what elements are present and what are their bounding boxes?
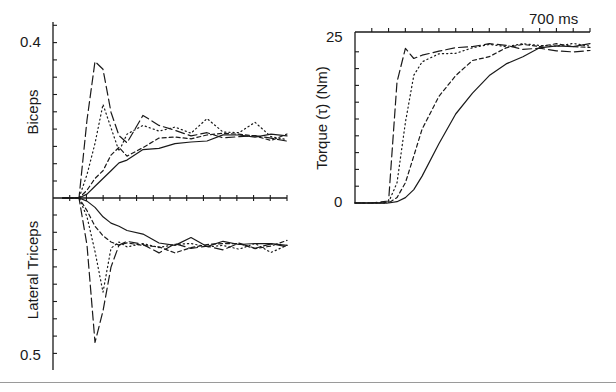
- triceps-ytick-0.5: 0.5: [20, 346, 41, 363]
- left-panel-emg: 0.4 0.5 Biceps Lateral Triceps: [20, 22, 287, 370]
- torque-ytick-25: 25: [326, 28, 343, 45]
- torque-ytick-0: 0: [334, 193, 342, 210]
- trace-long-dash: [63, 198, 287, 342]
- triceps-traces: [63, 198, 287, 342]
- biceps-axis-label: Biceps: [24, 89, 41, 134]
- torque-axis-label: Torque (τ) (Nm): [313, 66, 330, 169]
- biceps-traces: [63, 62, 287, 199]
- trace-solid: [63, 198, 287, 247]
- triceps-axis-label: Lateral Triceps: [24, 221, 41, 319]
- figure: 0.4 0.5 Biceps Lateral Triceps 700 ms 25…: [0, 0, 616, 392]
- trace-short-dash: [63, 133, 287, 198]
- figure-caption-cutoff: [0, 387, 616, 392]
- torque-traces: [355, 44, 590, 204]
- caption-divider: [0, 382, 616, 383]
- time-scale-label: 700 ms: [529, 10, 578, 27]
- trace-long-dash: [355, 44, 590, 203]
- biceps-ytick-0.4: 0.4: [20, 33, 41, 50]
- trace-solid: [63, 134, 287, 198]
- right-panel-torque: 700 ms 25 0 Torque (τ) (Nm): [313, 10, 590, 210]
